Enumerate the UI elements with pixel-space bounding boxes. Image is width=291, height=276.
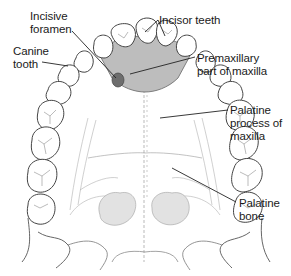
label-incisor-teeth: Incisor teeth bbox=[159, 14, 220, 27]
label-incisive-foramen: Incisive foramen bbox=[30, 10, 72, 36]
median-palatine-suture bbox=[144, 90, 147, 262]
label-premaxillary-part: Premaxillary part of maxilla bbox=[197, 52, 267, 78]
label-canine-tooth: Canine tooth bbox=[13, 45, 49, 71]
label-palatine-process: Palatine process of maxilla bbox=[230, 104, 282, 143]
leader-palatine-process bbox=[160, 110, 228, 118]
skull-base-outline bbox=[22, 218, 270, 270]
palate-vault-sketch bbox=[70, 118, 220, 215]
label-palatine-bone: Palatine bone bbox=[239, 197, 280, 223]
